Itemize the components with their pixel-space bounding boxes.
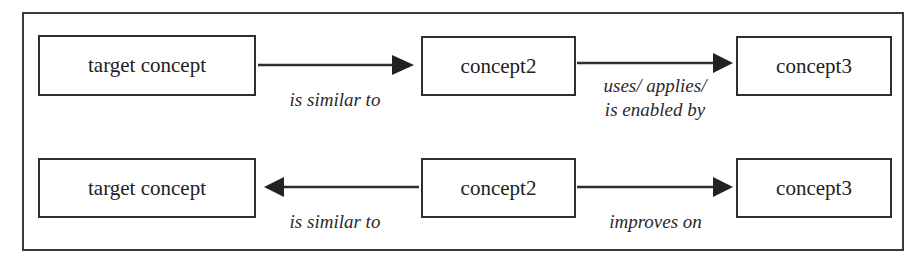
- edge-label-text: improves on: [609, 211, 702, 232]
- edge-label-is-similar-to-row2: is similar to: [280, 210, 390, 234]
- edge-label-improves-on: improves on: [598, 210, 713, 234]
- edge-label-uses-applies: uses/ applies/ is enabled by: [590, 74, 720, 122]
- edge-label-text: is similar to: [290, 211, 381, 232]
- edge-label-line2: is enabled by: [590, 98, 720, 122]
- arrow-right-icon: [577, 177, 733, 197]
- edge-arrows: [0, 0, 923, 264]
- arrow-right-icon: [577, 53, 733, 73]
- edge-label-line1: uses/ applies/: [590, 74, 720, 98]
- edge-label-text: is similar to: [290, 89, 381, 110]
- arrow-right-icon: [258, 55, 414, 75]
- edge-label-is-similar-to-row1: is similar to: [280, 88, 390, 112]
- arrow-left-icon: [264, 177, 419, 197]
